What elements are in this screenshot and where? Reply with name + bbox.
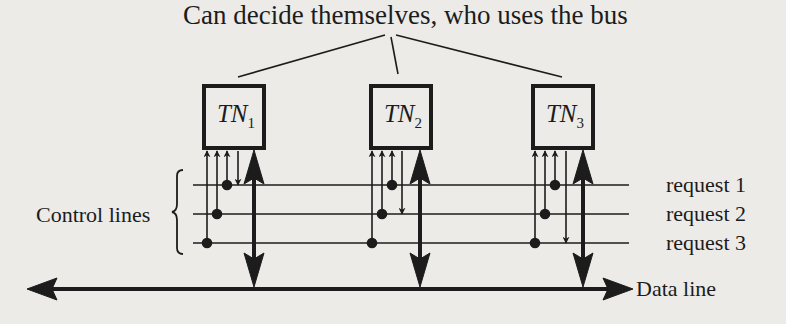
title-connectors (238, 35, 562, 77)
control-lines (193, 185, 629, 243)
node-subscript: 2 (415, 115, 423, 131)
request-2-label: request 2 (666, 201, 746, 227)
node-1-taps (203, 151, 239, 248)
node-2-taps (368, 151, 403, 248)
node-3-data-arrow (573, 150, 593, 287)
node-label-1: TN1 (204, 100, 268, 132)
diagram-title: Can decide themselves, who uses the bus (183, 0, 628, 31)
data-line (27, 278, 633, 300)
node-2-data-arrow (410, 150, 430, 287)
node-name: TN (217, 100, 248, 127)
node-name: TN (384, 100, 415, 127)
node-subscript: 1 (248, 115, 256, 131)
data-arrows (244, 150, 593, 287)
node-1-data-arrow (244, 150, 264, 287)
node-name: TN (546, 100, 577, 127)
node-label-3: TN3 (533, 100, 597, 132)
node-subscript: 3 (577, 115, 585, 131)
request-1-label: request 1 (666, 172, 746, 198)
control-lines-brace (172, 170, 183, 254)
node-label-2: TN2 (371, 100, 435, 132)
request-3-label: request 3 (666, 230, 746, 256)
node-3-taps (531, 151, 567, 248)
bus-arbitration-diagram: Can decide themselves, who uses the bus … (0, 0, 786, 324)
control-lines-label: Control lines (36, 202, 150, 228)
data-line-label: Data line (636, 276, 716, 302)
